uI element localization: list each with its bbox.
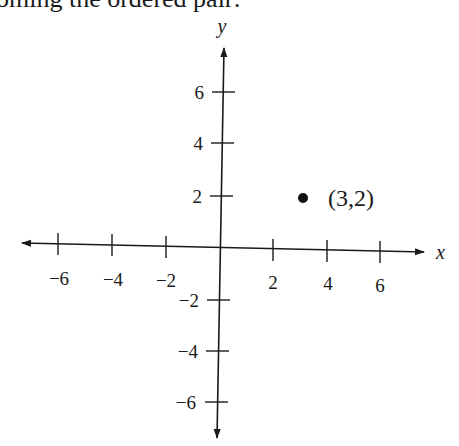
x-tick-label: 4	[323, 273, 333, 294]
y-tick-label: −2	[179, 290, 199, 311]
data-point	[298, 193, 308, 203]
x-tick-label: 6	[375, 275, 385, 296]
y-axis-label: y	[216, 15, 227, 38]
x-tick-label: −6	[49, 268, 69, 289]
y-tick-label: −4	[178, 341, 199, 362]
y-axis	[217, 48, 224, 438]
x-tick-label: −4	[103, 269, 124, 290]
y-tick-label: −6	[176, 392, 196, 413]
coordinate-plane: −6 −4 −2 2 4 6 6 4 2 −2 −4 −6 x y (3,2)	[0, 0, 459, 446]
y-tick-label: 4	[194, 133, 204, 154]
x-axis-label: x	[435, 241, 445, 263]
y-tick-label: 2	[193, 186, 203, 207]
x-axis	[22, 243, 424, 252]
x-tick-label: −2	[156, 270, 176, 291]
point-label: (3,2)	[328, 185, 374, 211]
y-tick-label: 6	[195, 82, 205, 103]
x-tick-label: 2	[268, 272, 278, 293]
